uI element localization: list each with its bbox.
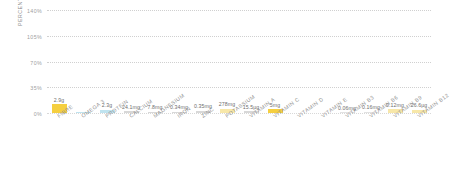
x-axis-labels: FIBREOMEGA 3PROTEINCALCIUMMAGNESIUMIRONZ… bbox=[47, 114, 431, 169]
bar-slot[interactable] bbox=[311, 10, 335, 113]
bar-slot[interactable]: 7.8mg bbox=[143, 10, 167, 113]
y-axis-tick: 140% bbox=[27, 8, 42, 14]
y-axis-tick: 105% bbox=[27, 34, 42, 40]
y-axis-tick: 70% bbox=[30, 60, 42, 66]
bar-value-label: 2.9g bbox=[54, 97, 65, 103]
bar-slot[interactable] bbox=[71, 10, 95, 113]
bar-slot[interactable]: 0.35mg bbox=[191, 10, 215, 113]
y-axis-title: PERCENTAGE OF RDA bbox=[14, 0, 26, 26]
bar-slot[interactable] bbox=[287, 10, 311, 113]
bar-slot[interactable]: 5mg bbox=[263, 10, 287, 113]
bar-slot[interactable]: 278mg bbox=[215, 10, 239, 113]
bar-slot[interactable]: 2.3g bbox=[95, 10, 119, 113]
bar-slot[interactable]: 0.06mg bbox=[335, 10, 359, 113]
bar-slot[interactable]: 2.9g bbox=[47, 10, 71, 113]
y-axis-tick: 35% bbox=[30, 85, 42, 91]
y-axis-tick: 0% bbox=[34, 111, 42, 117]
bar-slot[interactable]: 24.1mg bbox=[119, 10, 143, 113]
